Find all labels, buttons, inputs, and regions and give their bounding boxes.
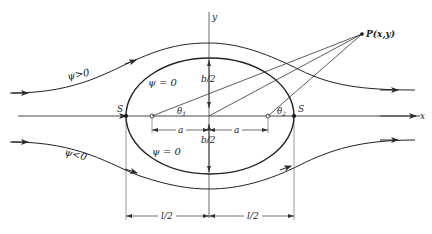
rankine-oval-diagram: x y S S P(x,y) θ1 θ2 b/2 b/2 a a	[0, 0, 432, 234]
lower-b-half-label: b/2	[201, 135, 216, 145]
upper-mid-arrow-icon	[125, 60, 136, 64]
lower-right-arrow-icon	[280, 166, 291, 170]
lower-streamline-label: ψ<0	[64, 146, 89, 162]
upper-b-half-label: b/2	[201, 74, 216, 84]
y-axis-label: y	[211, 12, 218, 22]
stagnation-label-left: S	[117, 104, 123, 114]
l-half-right-label: l/2	[247, 211, 259, 221]
a-right-label: a	[234, 125, 239, 135]
x-axis: x	[18, 111, 425, 121]
x-axis-label: x	[420, 111, 425, 121]
upper-streamline	[12, 43, 415, 93]
upper-streamline-label: ψ>0	[66, 66, 91, 82]
rays-to-point-p	[152, 34, 362, 116]
body-lower-label: ψ = 0	[152, 146, 182, 157]
theta2-label: θ2	[277, 106, 286, 117]
theta1-label: θ1	[177, 106, 186, 117]
l-half-left-label: l/2	[161, 211, 173, 221]
point-p	[360, 32, 364, 36]
body-upper-label: ψ = 0	[148, 77, 178, 88]
point-p-label: P(x,y)	[365, 29, 395, 40]
a-left-label: a	[178, 125, 183, 135]
stagnation-label-right: S	[298, 104, 304, 114]
